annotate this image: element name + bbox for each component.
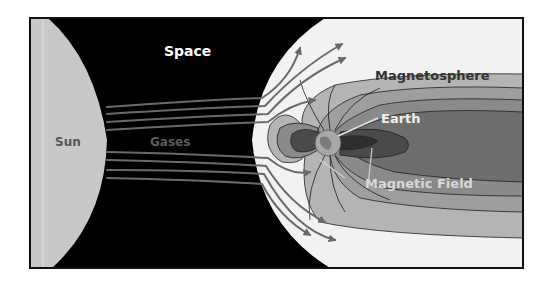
label-earth: Earth [381,111,421,126]
magnetosphere-diagram: Space Sun Gases Magnetosphere Earth Magn… [0,0,551,288]
label-space: Space [164,43,211,59]
label-magnetosphere: Magnetosphere [375,68,490,83]
dayside-lobe-inner [291,129,318,151]
label-magnetic-field: Magnetic Field [365,176,473,191]
label-sun: Sun [55,135,81,149]
label-gases: Gases [150,135,190,149]
